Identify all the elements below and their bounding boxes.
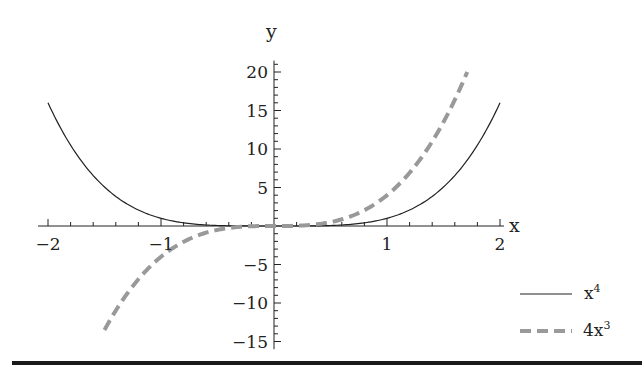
x-tick-label: −2 xyxy=(35,234,60,254)
y-axis-label: y xyxy=(265,20,277,42)
series-4x3-line xyxy=(105,72,468,330)
y-tick-label: 15 xyxy=(246,101,268,121)
y-tick-label: −5 xyxy=(243,255,268,275)
legend: x4 4x3 xyxy=(520,282,610,340)
tick-labels: −2−112−15−10−55101520 xyxy=(35,62,505,352)
x-tick-label: 2 xyxy=(495,234,506,254)
y-tick-label: 20 xyxy=(246,62,268,82)
x-tick-label: −1 xyxy=(148,234,173,254)
x-axis-label: x xyxy=(509,214,520,236)
y-tick-label: −15 xyxy=(232,332,268,352)
legend-label-x4: x4 xyxy=(584,282,601,303)
axes xyxy=(38,61,504,350)
y-tick-label: 10 xyxy=(246,139,268,159)
bottom-rule xyxy=(12,361,642,365)
x-tick-label: 1 xyxy=(382,234,393,254)
y-tick-label: −10 xyxy=(232,293,268,313)
y-tick-label: 5 xyxy=(257,178,268,198)
legend-label-4x3: 4x3 xyxy=(583,319,610,340)
plot-area: −2−112−15−10−55101520 x y x4 4x3 xyxy=(0,0,642,371)
